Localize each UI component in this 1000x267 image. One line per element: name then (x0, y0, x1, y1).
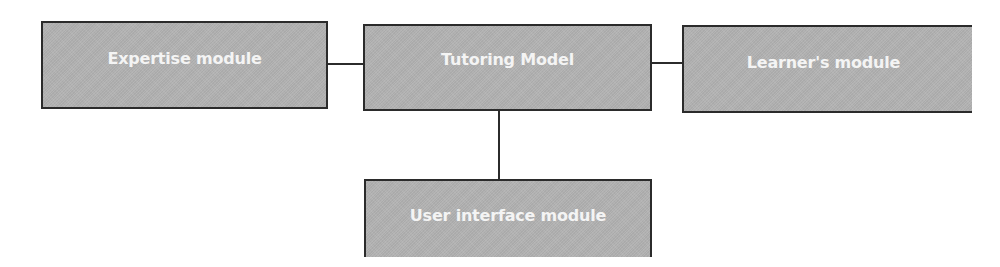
learners-module-label: Learner's module (684, 53, 963, 72)
expertise-module-box: Expertise module (41, 21, 328, 109)
learners-module-box: Learner's module (682, 25, 972, 113)
tutoring-model-label: Tutoring Model (365, 50, 650, 69)
connector-tutoring-user-interface (498, 110, 500, 180)
user-interface-module-label: User interface module (366, 206, 650, 225)
connector-expertise-tutoring (327, 63, 364, 65)
connector-tutoring-learner (651, 62, 683, 64)
expertise-module-label: Expertise module (43, 49, 326, 68)
user-interface-module-box: User interface module (364, 179, 652, 257)
tutoring-model-box: Tutoring Model (363, 24, 652, 111)
